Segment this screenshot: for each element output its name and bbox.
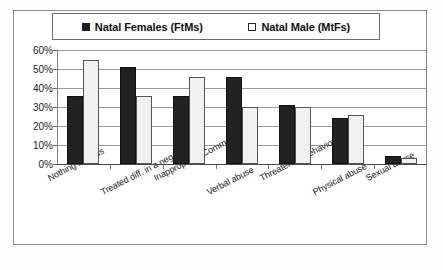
y-axis-tick-labels: 60%50%40%30%20%10%0%: [18, 50, 53, 164]
bar: [173, 96, 189, 164]
x-axis-category-labels: Nothing like thisTreated diff. in a neg.…: [57, 168, 427, 240]
bar-group: [57, 50, 110, 164]
bar-group: [268, 50, 321, 164]
x-axis-category-tick: [321, 165, 322, 169]
bar: [136, 96, 152, 164]
y-axis-tick-mark: [53, 126, 57, 127]
legend-label-natal-females: Natal Females (FtMs): [95, 21, 203, 33]
y-axis-tick-label: 30%: [33, 102, 53, 113]
bar: [83, 60, 99, 165]
bar-group: [163, 50, 216, 164]
x-axis-line: [57, 164, 427, 165]
y-axis-tick-label: 0%: [39, 159, 53, 170]
bar: [332, 118, 348, 164]
chart-legend: Natal Females (FtMs) Natal Male (MtFs): [52, 13, 380, 40]
y-axis-tick-mark: [53, 145, 57, 146]
y-axis-tick-label: 10%: [33, 140, 53, 151]
legend-entry-natal-females: Natal Females (FtMs): [82, 21, 203, 33]
bar: [385, 156, 401, 164]
x-axis-category-tick: [110, 165, 111, 169]
y-axis-tick-label: 20%: [33, 121, 53, 132]
legend-label-natal-male: Natal Male (MtFs): [261, 21, 350, 33]
bar-chart-figure: Natal Females (FtMs) Natal Male (MtFs) 6…: [0, 0, 443, 270]
bar: [120, 67, 136, 164]
y-axis-tick-mark: [53, 164, 57, 165]
x-axis-category-tick: [374, 165, 375, 169]
bar: [226, 77, 242, 164]
bar-group: [374, 50, 427, 164]
y-axis-tick-label: 50%: [33, 64, 53, 75]
y-axis-tick-mark: [53, 50, 57, 51]
bar: [295, 107, 311, 164]
bar-group: [216, 50, 269, 164]
y-axis-tick-label: 60%: [33, 45, 53, 56]
plot-right-edge: [426, 50, 427, 165]
bar-group: [321, 50, 374, 164]
bar: [242, 107, 258, 164]
legend-swatch-hollow-icon: [248, 23, 256, 31]
y-axis-tick-mark: [53, 69, 57, 70]
x-axis-category-tick: [268, 165, 269, 169]
bar-group: [110, 50, 163, 164]
bar: [279, 105, 295, 164]
bar-series-container: [57, 50, 427, 164]
legend-swatch-filled-icon: [82, 23, 90, 31]
bar: [348, 115, 364, 164]
y-axis-tick-label: 40%: [33, 83, 53, 94]
bar: [67, 96, 83, 164]
x-axis-category-tick: [216, 165, 217, 169]
bar: [189, 77, 205, 164]
y-axis-line: [57, 50, 58, 165]
x-axis-category-tick: [163, 165, 164, 169]
legend-entry-natal-male: Natal Male (MtFs): [248, 21, 350, 33]
y-axis-tick-mark: [53, 107, 57, 108]
y-axis-tick-mark: [53, 88, 57, 89]
x-axis-category-label: Verbal abuse: [205, 165, 255, 197]
